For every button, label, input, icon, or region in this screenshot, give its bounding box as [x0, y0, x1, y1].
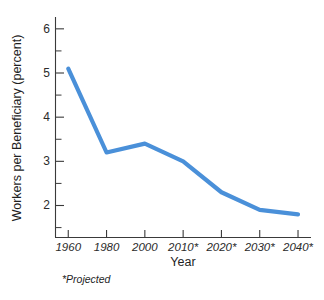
y-tick-label: 6: [43, 22, 50, 36]
y-tick-label: 5: [43, 66, 50, 80]
x-tick-label: 2020*: [205, 241, 237, 253]
x-tick-label: 1980: [94, 241, 120, 253]
projected-footnote: *Projected: [62, 273, 112, 285]
y-tick-label: 4: [43, 110, 50, 124]
x-tick-label: 2040*: [282, 241, 314, 253]
y-tick-label: 2: [43, 198, 50, 212]
x-tick-label: 1960: [55, 241, 81, 253]
x-axis-title: Year: [170, 255, 195, 269]
x-tick-label: 2030*: [244, 241, 276, 253]
y-tick-label: 3: [43, 154, 50, 168]
x-tick-label: 2000: [131, 241, 158, 253]
x-tick-label: 2010*: [167, 241, 199, 253]
chart-figure: 23456 1960198020002010*2020*2030*2040* W…: [0, 0, 324, 300]
y-axis-title: Workers per Beneficiary (percent): [10, 35, 24, 222]
line-chart: 23456 1960198020002010*2020*2030*2040* W…: [0, 0, 324, 300]
